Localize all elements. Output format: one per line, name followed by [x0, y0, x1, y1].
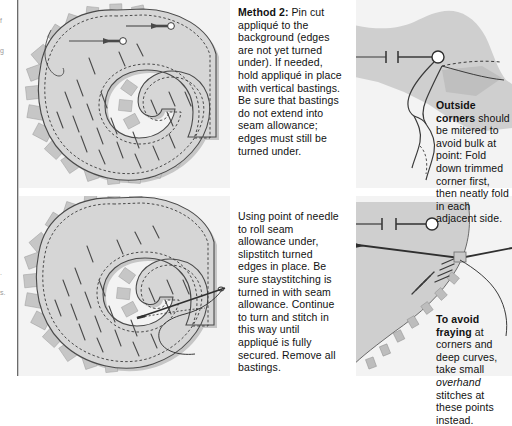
caption-method-2: Method 2: Pin cut appliqué to the backgr… — [238, 6, 342, 157]
left-edge-fragment-3: . — [0, 268, 14, 277]
caption-method-2-body: Pin cut appliqué to the background (edge… — [238, 6, 342, 157]
caption-avoid-fraying: To avoid fraying at corners and deep cur… — [436, 313, 512, 426]
fold-line-dashed — [420, 146, 427, 174]
left-edge-fragment-1: f — [0, 16, 14, 25]
figure-pinned-applique — [19, 0, 230, 188]
caption-slipstitch: Using point of needle to roll seam allow… — [238, 210, 342, 374]
g-shaped-applique — [36, 197, 214, 368]
slipstitch-applique-drawing — [19, 196, 230, 376]
left-edge-fragment-2: g — [0, 46, 14, 55]
caption-avoid-fraying-emphasis: overhand — [436, 376, 481, 388]
g-shaped-applique — [38, 9, 216, 180]
caption-avoid-fraying-body-post: stitches at these points instead. — [436, 389, 494, 426]
caption-outside-corners-heading: Outside corners — [436, 99, 476, 124]
caption-outside-corners-body: should be mitered to avoid bulk at point… — [436, 112, 510, 225]
caption-outside-corners: Outside corners should be mitered to avo… — [436, 99, 512, 225]
figure-slipstitching-applique — [19, 196, 230, 376]
left-edge-fragment-4: s. — [0, 288, 14, 297]
caption-method-2-heading: Method 2: — [238, 6, 288, 18]
pinned-applique-drawing — [19, 0, 230, 188]
caption-slipstitch-body: Using point of needle to roll seam allow… — [238, 210, 339, 373]
